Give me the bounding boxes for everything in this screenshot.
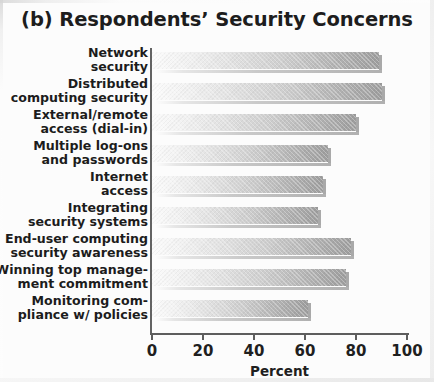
category-label: Distributed computing security (0, 77, 148, 105)
bar-edge-bottom (155, 163, 331, 166)
bar (152, 207, 318, 224)
x-tick-label-80: 80 (346, 342, 367, 360)
bar (152, 145, 328, 162)
category-label: Winning top manage- ment commitment (0, 263, 148, 291)
bar (152, 176, 323, 193)
x-tick-label-60: 60 (295, 342, 316, 360)
bar-row (152, 269, 352, 286)
x-tick-40 (253, 333, 255, 340)
x-tick-label-20: 20 (193, 342, 214, 360)
category-label: External/remote access (dial-in) (0, 108, 148, 136)
scan-edge-right (430, 0, 434, 382)
x-tick-label-40: 40 (244, 342, 265, 360)
category-label: Internet access (0, 170, 148, 198)
chart-title: (b) Respondents’ Security Concerns (0, 8, 434, 31)
bar-row (152, 52, 385, 69)
category-label: Multiple log-ons and passwords (0, 139, 148, 167)
bar-row (152, 83, 388, 100)
bar (152, 300, 308, 317)
category-label: Network security (0, 46, 148, 74)
category-label: Monitoring com- pliance w/ policies (0, 294, 148, 322)
bar-row (152, 207, 324, 224)
bar-edge-bottom (155, 256, 354, 259)
bar (152, 114, 356, 131)
x-tick-0 (151, 333, 153, 340)
x-tick-60 (304, 333, 306, 340)
x-tick-80 (355, 333, 357, 340)
category-label: Integrating security systems (0, 201, 148, 229)
bar-row (152, 238, 357, 255)
plot-area: 020406080100 Percent (152, 48, 407, 333)
bar-edge-bottom (155, 101, 385, 104)
bar (152, 269, 346, 286)
x-tick-label-0: 0 (147, 342, 157, 360)
bar-row (152, 145, 334, 162)
bar-edge-bottom (155, 132, 359, 135)
bar-edge-bottom (155, 225, 321, 228)
bar-row (152, 300, 314, 317)
category-label: End-user computing security awareness (0, 232, 148, 260)
x-tick-100 (406, 333, 408, 340)
x-tick-label-100: 100 (391, 342, 422, 360)
x-axis-label: Percent (152, 363, 407, 379)
bar-edge-bottom (155, 287, 349, 290)
x-tick-20 (202, 333, 204, 340)
bar-edge-bottom (155, 194, 326, 197)
figure-panel: (b) Respondents’ Security Concerns 02040… (0, 0, 434, 382)
bar (152, 238, 351, 255)
bar (152, 52, 379, 69)
bar-row (152, 114, 362, 131)
bar-edge-bottom (155, 70, 382, 73)
scan-edge-top (0, 0, 434, 3)
bar-row (152, 176, 329, 193)
bar (152, 83, 382, 100)
x-axis-line (150, 333, 409, 335)
bar-edge-bottom (155, 318, 311, 321)
